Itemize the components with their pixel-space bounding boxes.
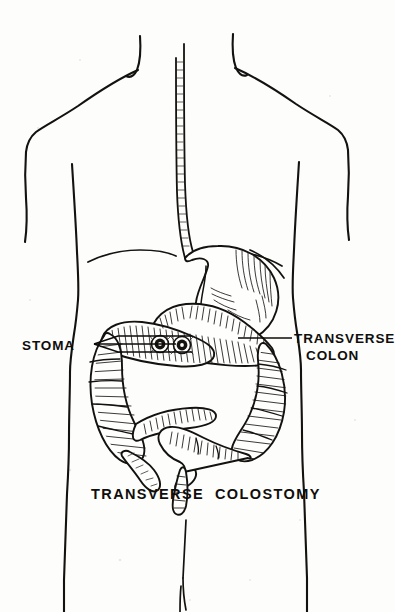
transverse-colon-label-line1: TRANSVERSE [294, 331, 395, 346]
illustration-canvas: STOMA TRANSVERSE COLON TRANSVERSE COLOST… [0, 0, 395, 612]
esophagus [176, 44, 193, 258]
stoma-label: STOMA [22, 338, 75, 353]
transverse-colon-label-line2: COLON [306, 348, 359, 363]
colostomy-figure: STOMA TRANSVERSE COLON TRANSVERSE COLOST… [0, 0, 395, 612]
figure-caption: TRANSVERSE COLOSTOMY [91, 486, 321, 502]
